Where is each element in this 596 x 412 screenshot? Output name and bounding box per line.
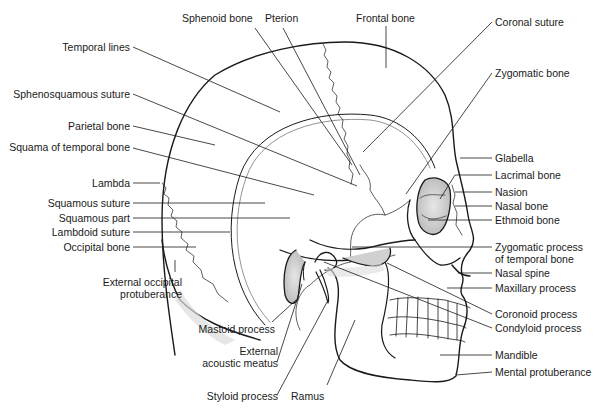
label-nasal-spine: Nasal spine: [495, 267, 550, 279]
label-lacrimal-bone: Lacrimal bone: [495, 169, 561, 181]
label-occipital-bone: Occipital bone: [63, 241, 130, 253]
label-external-acoustic-meatus: External acoustic meatus: [202, 345, 278, 369]
label-line-2: protuberance: [103, 288, 182, 300]
label-lambda: Lambda: [92, 177, 130, 189]
label-line-1: Zygomatic process: [495, 241, 583, 253]
label-mental-protuberance: Mental protuberance: [495, 366, 591, 378]
label-lambdoid-suture: Lambdoid suture: [52, 226, 130, 238]
mastoid: [284, 250, 305, 303]
label-sphenoid-bone: Sphenoid bone: [182, 12, 253, 24]
label-zygomatic-bone: Zygomatic bone: [495, 67, 570, 79]
label-zygomatic-process: Zygomatic process of temporal bone: [495, 241, 583, 265]
teeth: [388, 297, 470, 342]
orbit: [417, 178, 451, 234]
label-condyloid-process: Condyloid process: [495, 322, 581, 334]
label-nasal-bone: Nasal bone: [495, 200, 548, 212]
label-squamous-part: Squamous part: [59, 212, 130, 224]
label-glabella: Glabella: [495, 152, 534, 164]
label-mandible: Mandible: [495, 349, 538, 361]
zygomatic-arch: [310, 240, 415, 249]
label-sphenosquamous-suture: Sphenosquamous suture: [13, 88, 130, 100]
mandible-outline: [328, 268, 456, 382]
condyle: [315, 252, 337, 270]
skull-diagram: Sphenoid bone Pterion Frontal bone Tempo…: [0, 0, 596, 412]
label-ethmoid-bone: Ethmoid bone: [495, 214, 560, 226]
label-styloid-process: Styloid process: [207, 390, 278, 402]
label-pterion: Pterion: [265, 12, 298, 24]
label-line-2: of temporal bone: [495, 253, 583, 265]
label-mastoid-process: Mastoid process: [199, 323, 275, 335]
label-frontal-bone: Frontal bone: [356, 12, 415, 24]
label-coronoid-process: Coronoid process: [495, 308, 577, 320]
label-squama-of-temporal-bone: Squama of temporal bone: [9, 141, 130, 153]
label-coronal-suture: Coronal suture: [495, 16, 564, 28]
label-squamous-suture: Squamous suture: [48, 197, 130, 209]
label-ramus: Ramus: [291, 390, 324, 402]
label-line-1: External occipital: [103, 276, 182, 288]
label-nasion: Nasion: [495, 186, 528, 198]
label-external-occipital-protuberance: External occipital protuberance: [103, 276, 182, 300]
label-line-2: acoustic meatus: [202, 357, 278, 369]
label-maxillary-process: Maxillary process: [495, 282, 576, 294]
label-parietal-bone: Parietal bone: [68, 120, 130, 132]
label-line-1: External: [202, 345, 278, 357]
label-temporal-lines: Temporal lines: [62, 41, 130, 53]
styloid: [316, 270, 329, 303]
